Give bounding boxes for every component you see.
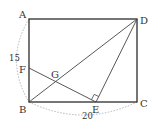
segment-fe [29, 68, 96, 102]
label-f: F [19, 64, 26, 75]
label-b: B [19, 104, 26, 115]
label-a: A [18, 9, 27, 20]
segment-bd [29, 19, 137, 102]
dimension-label-15: 15 [9, 53, 20, 63]
dimension-label-20: 20 [82, 111, 93, 121]
label-d: D [140, 15, 148, 26]
segment-de [96, 19, 137, 102]
label-e: E [92, 104, 99, 115]
label-g: G [51, 69, 59, 80]
label-c: C [140, 98, 148, 109]
geometry-figure: A D B C F G E 15 20 [0, 0, 162, 125]
